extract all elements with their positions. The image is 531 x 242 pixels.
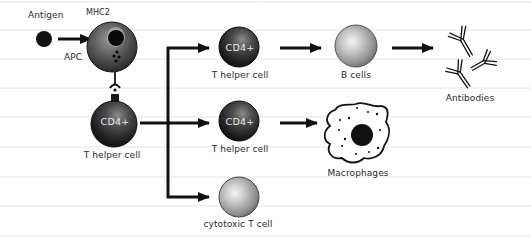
- b-cell-icon: [335, 25, 377, 67]
- label-mhc2: MHC2: [86, 8, 110, 17]
- macrophage-cell-icon: [325, 103, 389, 163]
- label-t-helper-top: T helper cell: [212, 70, 269, 80]
- cd4-marker-top: CD4+: [226, 42, 255, 53]
- label-cytotoxic-t: cytotoxic T cell: [203, 219, 272, 229]
- cd4-marker-origin: CD4+: [101, 116, 130, 127]
- antigen-dot-icon: [36, 31, 52, 47]
- diagram-canvas: [0, 0, 531, 242]
- cd4-marker-mid: CD4+: [226, 116, 255, 127]
- apc-cell-icon: [87, 22, 137, 72]
- label-b-cells: B cells: [341, 70, 371, 80]
- label-t-helper-origin: T helper cell: [84, 150, 141, 160]
- label-antibodies: Antibodies: [446, 93, 495, 103]
- label-antigen: Antigen: [28, 10, 64, 20]
- cytotoxic-t-cell-icon: [219, 177, 259, 217]
- label-apc: APC: [64, 52, 82, 62]
- label-macrophages: Macrophages: [327, 168, 388, 178]
- label-t-helper-mid: T helper cell: [212, 144, 269, 154]
